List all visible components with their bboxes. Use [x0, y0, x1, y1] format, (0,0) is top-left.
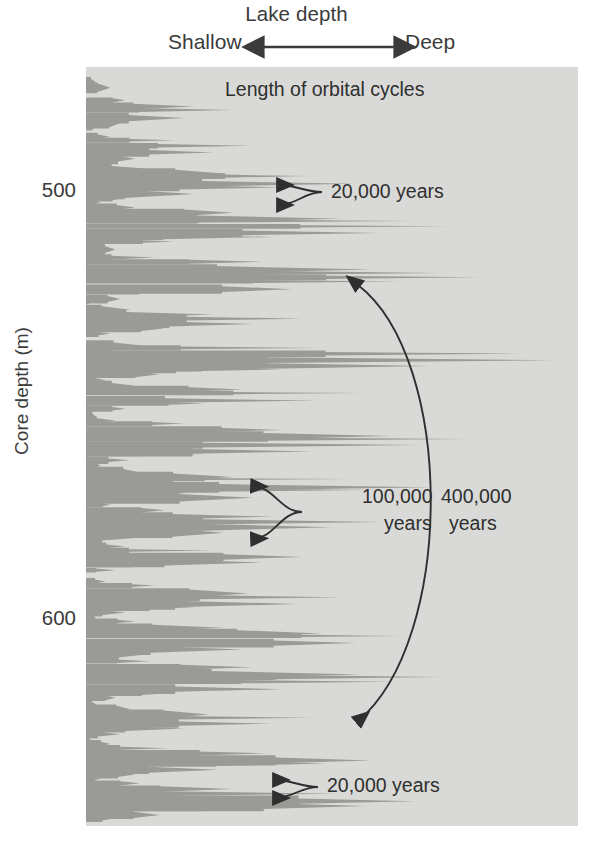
trace-wedge	[86, 108, 234, 113]
trace-wedge	[86, 391, 362, 396]
annotation-400000-line1: 400,000	[441, 485, 512, 507]
annotation-20000-years-bottom: 20,000 years	[327, 774, 440, 797]
trace-wedge	[86, 345, 322, 350]
trace-wedge	[86, 406, 125, 412]
trace-wedge	[86, 548, 214, 554]
trace-wedge	[86, 619, 135, 625]
trace-wedge	[86, 659, 150, 664]
trace-wedge	[86, 674, 440, 680]
annotation-20000-years-top: 20,000 years	[331, 180, 444, 203]
trace-wedge	[86, 781, 140, 787]
trace-wedge	[86, 568, 116, 573]
trace-wedge	[86, 280, 401, 284]
orbital-cycles-header: Length of orbital cycles	[225, 78, 424, 101]
trace-wedge	[86, 421, 184, 426]
trace-wedge	[86, 259, 263, 264]
y-axis-label: Core depth (m)	[11, 311, 33, 471]
annotation-100000-line1: 100,000	[362, 485, 433, 507]
figure-root: Lake depth Shallow Deep Core depth (m) 5…	[0, 0, 593, 844]
annotation-400000-line2: years	[449, 510, 512, 537]
trace-wedge	[86, 97, 125, 103]
annotation-100000-years: 100,000 years	[362, 483, 433, 537]
trace-wedge	[86, 634, 401, 638]
y-tick-500: 500	[14, 178, 76, 202]
lake-depth-arrow-icon	[0, 0, 593, 67]
trace-wedge	[86, 224, 450, 229]
y-tick-600: 600	[14, 606, 76, 630]
trace-wedge	[86, 173, 307, 179]
trace-wedge	[86, 583, 155, 588]
annotation-400000-years: 400,000 years	[441, 483, 512, 537]
trace-wedge	[86, 507, 165, 513]
annotation-100000-line2: years	[384, 510, 433, 537]
trace-wedge	[86, 295, 120, 304]
trace-wedge	[86, 138, 175, 143]
top-axis: Lake depth Shallow Deep	[0, 0, 593, 67]
trace-wedge	[86, 679, 396, 684]
trace-wedge	[86, 275, 480, 281]
trace-wedge	[86, 143, 253, 149]
